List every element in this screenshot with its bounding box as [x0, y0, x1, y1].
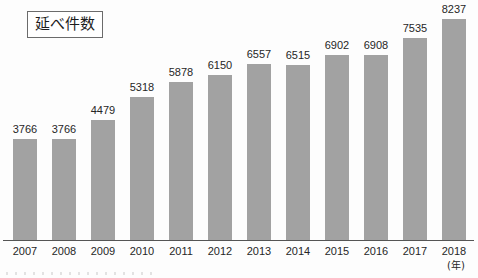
x-tick-2014: 2014 — [278, 246, 318, 257]
bar-value-2014: 6515 — [276, 50, 320, 61]
bar-value-2010: 5318 — [120, 82, 164, 93]
bar-2011 — [169, 82, 193, 240]
x-tick-2018: 2018 — [434, 246, 474, 257]
bar-value-2016: 6908 — [354, 40, 398, 51]
bar-value-2011: 5878 — [159, 67, 203, 78]
x-tick-2009: 2009 — [83, 246, 123, 257]
x-tick-2011: 2011 — [161, 246, 201, 257]
bar-2017 — [403, 38, 427, 240]
bar-2016 — [364, 55, 388, 240]
x-tick-2015: 2015 — [317, 246, 357, 257]
bar-value-2017: 7535 — [393, 23, 437, 34]
bar-2010 — [130, 97, 154, 240]
bar-2008 — [52, 139, 76, 240]
bar-2015 — [325, 55, 349, 240]
chart-page: 延べ件数 3766 3766 4479 5318 5878 6150 6557 … — [0, 0, 478, 278]
x-tick-2013: 2013 — [239, 246, 279, 257]
bar-value-2015: 6902 — [315, 40, 359, 51]
bar-2007 — [13, 139, 37, 240]
bar-value-2013: 6557 — [237, 49, 281, 60]
scan-artifact — [6, 272, 156, 275]
x-tick-2017: 2017 — [395, 246, 435, 257]
bar-value-2009: 4479 — [81, 105, 125, 116]
bar-2018 — [442, 19, 466, 240]
bar-chart-plot-area: 3766 3766 4479 5318 5878 6150 6557 6515 … — [0, 0, 478, 278]
x-axis-line — [3, 240, 474, 241]
bar-2013 — [247, 64, 271, 240]
bar-value-2007: 3766 — [3, 124, 47, 135]
x-tick-2007: 2007 — [5, 246, 45, 257]
bar-2009 — [91, 120, 115, 240]
bar-2012 — [208, 75, 232, 240]
bar-value-2012: 6150 — [198, 60, 242, 71]
x-tick-2010: 2010 — [122, 246, 162, 257]
x-tick-2016: 2016 — [356, 246, 396, 257]
x-tick-2008: 2008 — [44, 246, 84, 257]
bar-value-2008: 3766 — [42, 124, 86, 135]
x-axis-unit-label: (年) — [437, 261, 475, 271]
bar-value-2018: 8237 — [432, 4, 476, 15]
x-tick-2012: 2012 — [200, 246, 240, 257]
bar-2014 — [286, 65, 310, 240]
